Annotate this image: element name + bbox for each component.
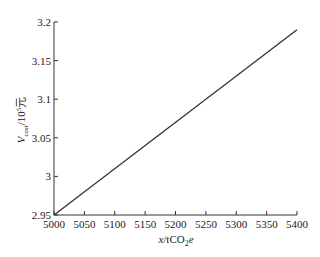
x-ticks: 500050505100515052005250530053505400 bbox=[43, 211, 309, 230]
y-axis-label: Vcost/105元 bbox=[15, 97, 30, 144]
x-tick-label: 5250 bbox=[195, 218, 218, 230]
y-tick-label: 3.2 bbox=[37, 16, 51, 28]
x-tick-label: 5200 bbox=[165, 218, 188, 230]
y-tick-label: 3.15 bbox=[32, 55, 52, 67]
x-axis-label: x/tCO2e bbox=[157, 233, 193, 248]
x-tick-label: 5150 bbox=[134, 218, 157, 230]
data-line bbox=[54, 30, 297, 215]
axes bbox=[54, 22, 297, 215]
y-tick-label: 2.95 bbox=[32, 209, 52, 221]
x-tick-label: 5100 bbox=[104, 218, 127, 230]
x-tick-label: 5400 bbox=[286, 218, 309, 230]
y-tick-label: 3.1 bbox=[37, 93, 51, 105]
y-tick-label: 3 bbox=[46, 170, 52, 182]
line-chart: 500050505100515052005250530053505400 2.9… bbox=[0, 0, 320, 257]
x-tick-label: 5050 bbox=[73, 218, 96, 230]
y-tick-label: 3.05 bbox=[32, 132, 52, 144]
x-tick-label: 5350 bbox=[256, 218, 279, 230]
x-tick-label: 5300 bbox=[225, 218, 248, 230]
